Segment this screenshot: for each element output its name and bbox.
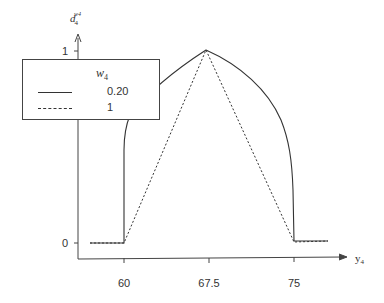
y-tick-label-0: 0	[62, 237, 68, 249]
legend-item-1: 1	[38, 101, 148, 115]
legend-title: w4	[96, 66, 108, 82]
legend-item-0-20: 0.20	[38, 85, 148, 99]
legend-label: 0.20	[107, 85, 128, 97]
x-axis-arrow-icon	[339, 254, 347, 260]
x-axis-label: y4	[355, 252, 365, 266]
x-tick-label-60: 60	[118, 277, 130, 289]
legend: w4 0.20 1	[22, 59, 160, 120]
y-tick-label-1: 1	[62, 45, 68, 57]
dotted-line-icon	[38, 108, 72, 109]
x-axis	[78, 257, 344, 259]
x-tick-label-75: 75	[288, 277, 300, 289]
solid-line-icon	[38, 92, 72, 93]
chart-canvas: 0 1 60 67.5 75 y4 d4w4	[0, 0, 384, 303]
legend-label: 1	[107, 101, 113, 113]
y-axis-label: d4w4	[70, 11, 81, 27]
x-tick-label-67-5: 67.5	[198, 277, 219, 289]
